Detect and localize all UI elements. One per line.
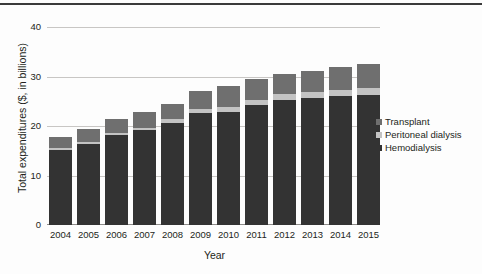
- y-tick-label: 0: [36, 220, 41, 230]
- bar-column: [105, 27, 128, 225]
- bar-group: [47, 27, 382, 225]
- top-horizontal-rule: [0, 3, 482, 5]
- legend-label: Transplant: [385, 116, 430, 128]
- x-tick-labels: 2004200520062007200820092010201120122013…: [47, 230, 382, 240]
- legend-swatch-icon: [376, 145, 382, 151]
- y-tick-label: 10: [30, 171, 41, 181]
- bar-segment-hemodialysis: [329, 96, 352, 225]
- bar-segment-transplant: [105, 119, 128, 133]
- chart-figure: 010203040 200420052006200720082009201020…: [0, 0, 482, 274]
- bar-segment-peritoneal-dialysis: [357, 88, 380, 95]
- x-tick-label: 2012: [273, 230, 296, 240]
- bar-segment-hemodialysis: [133, 130, 156, 225]
- bar-segment-hemodialysis: [105, 135, 128, 225]
- bar-column: [133, 27, 156, 225]
- legend-label: Peritoneal dialysis: [385, 129, 462, 141]
- bar-column: [273, 27, 296, 225]
- x-tick-label: 2011: [245, 230, 268, 240]
- bar-column: [301, 27, 324, 225]
- bar-column: [329, 27, 352, 225]
- bar-column: [161, 27, 184, 225]
- bar-segment-transplant: [301, 71, 324, 92]
- x-tick-label: 2013: [301, 230, 324, 240]
- bar-column: [245, 27, 268, 225]
- legend-swatch-icon: [376, 132, 382, 138]
- bar-segment-hemodialysis: [245, 105, 268, 225]
- plot-area: 010203040: [47, 24, 382, 228]
- chart-legend: TransplantPeritoneal dialysisHemodialysi…: [376, 116, 462, 154]
- y-tick-label: 20: [30, 121, 41, 131]
- legend-label: Hemodialysis: [385, 142, 442, 154]
- bar-segment-hemodialysis: [273, 100, 296, 225]
- bar-segment-transplant: [357, 64, 380, 89]
- bar-segment-transplant: [189, 91, 212, 109]
- bar-segment-transplant: [329, 67, 352, 90]
- bar-segment-transplant: [133, 112, 156, 128]
- legend-item: Transplant: [376, 116, 462, 128]
- bar-column: [77, 27, 100, 225]
- x-tick-label: 2009: [189, 230, 212, 240]
- x-tick-label: 2006: [105, 230, 128, 240]
- bar-segment-transplant: [273, 74, 296, 95]
- bar-column: [217, 27, 240, 225]
- y-tick-label: 30: [30, 72, 41, 82]
- bar-segment-hemodialysis: [77, 144, 100, 225]
- x-tick-label: 2015: [357, 230, 380, 240]
- x-tick-label: 2005: [77, 230, 100, 240]
- bar-segment-hemodialysis: [357, 95, 380, 225]
- bar-segment-transplant: [77, 129, 100, 141]
- x-tick-label: 2004: [49, 230, 72, 240]
- x-tick-label: 2007: [133, 230, 156, 240]
- bar-segment-hemodialysis: [301, 98, 324, 225]
- legend-swatch-icon: [376, 119, 382, 125]
- bar-column: [49, 27, 72, 225]
- x-axis-title: Year: [47, 249, 382, 261]
- bar-segment-transplant: [49, 137, 72, 148]
- bar-segment-transplant: [217, 86, 240, 107]
- x-tick-label: 2010: [217, 230, 240, 240]
- legend-item: Hemodialysis: [376, 142, 462, 154]
- bar-segment-hemodialysis: [217, 112, 240, 225]
- bar-column: [189, 27, 212, 225]
- bar-segment-hemodialysis: [49, 150, 72, 225]
- legend-item: Peritoneal dialysis: [376, 129, 462, 141]
- bar-segment-transplant: [161, 104, 184, 119]
- x-tick-label: 2014: [329, 230, 352, 240]
- bar-segment-transplant: [245, 79, 268, 100]
- y-tick-label: 40: [30, 22, 41, 32]
- x-tick-label: 2008: [161, 230, 184, 240]
- bar-segment-hemodialysis: [189, 113, 212, 225]
- y-axis-title: Total expenditures ($, in billions): [16, 18, 28, 218]
- bar-segment-hemodialysis: [161, 123, 184, 225]
